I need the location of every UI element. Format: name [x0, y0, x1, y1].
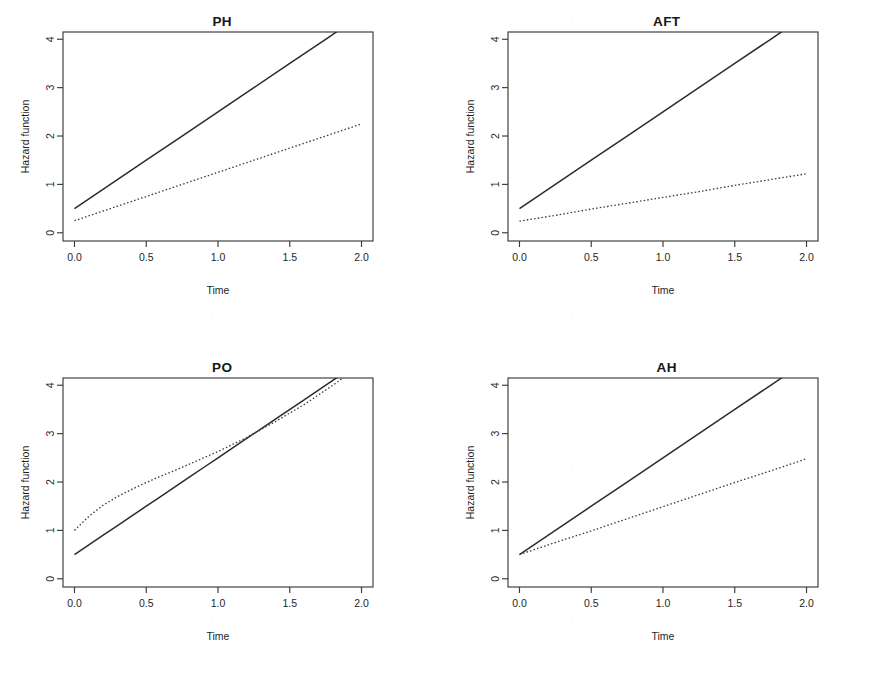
x-tick-label: 1.5: [727, 251, 742, 263]
y-tick-label: 0: [489, 576, 501, 582]
plot-ah: 0.00.51.01.52.001234TimeHazard function: [445, 346, 889, 692]
y-axis-title: Hazard function: [19, 446, 31, 520]
x-tick-label: 0.5: [583, 251, 598, 263]
x-tick-label: 0.0: [512, 251, 527, 263]
x-tick-label: 0.0: [512, 597, 527, 609]
x-tick-label: 0.0: [67, 251, 82, 263]
curve-baseline: [74, 361, 361, 555]
plot-frame: [508, 378, 818, 587]
plot-frame: [63, 378, 373, 587]
curve-baseline: [519, 15, 806, 209]
y-tick-label: 2: [44, 133, 56, 139]
x-tick-label: 2.0: [799, 597, 814, 609]
x-tick-label: 1.0: [211, 251, 226, 263]
y-tick-label: 3: [44, 431, 56, 437]
panel-aft: AFT 0.00.51.01.52.001234TimeHazard funct…: [445, 0, 889, 346]
y-tick-label: 0: [44, 230, 56, 236]
curve-covariate: [519, 459, 806, 555]
x-tick-label: 1.0: [655, 597, 670, 609]
y-tick-label: 1: [489, 181, 501, 187]
y-tick-label: 1: [44, 527, 56, 533]
y-tick-label: 3: [489, 85, 501, 91]
x-tick-label: 2.0: [354, 251, 369, 263]
plot-frame: [508, 32, 818, 241]
y-tick-label: 3: [489, 431, 501, 437]
y-tick-label: 4: [44, 382, 56, 388]
panel-po: PO 0.00.51.01.52.001234TimeHazard functi…: [0, 346, 445, 692]
y-tick-label: 3: [44, 85, 56, 91]
y-tick-label: 4: [44, 36, 56, 42]
y-tick-label: 1: [489, 527, 501, 533]
x-tick-label: 1.0: [211, 597, 226, 609]
curve-baseline: [519, 361, 806, 555]
x-axis-title: Time: [651, 630, 674, 642]
curve-covariate: [74, 124, 361, 221]
x-tick-label: 0.5: [139, 251, 154, 263]
x-tick-label: 2.0: [799, 251, 814, 263]
y-tick-label: 1: [44, 181, 56, 187]
x-tick-label: 2.0: [354, 597, 369, 609]
x-tick-label: 1.5: [282, 251, 297, 263]
y-tick-label: 0: [44, 576, 56, 582]
x-axis-title: Time: [207, 284, 230, 296]
x-axis-title: Time: [207, 630, 230, 642]
curve-covariate: [519, 174, 806, 221]
x-tick-label: 0.0: [67, 597, 82, 609]
plot-po: 0.00.51.01.52.001234TimeHazard function: [0, 346, 445, 692]
y-axis-title: Hazard function: [464, 446, 476, 520]
x-axis-title: Time: [651, 284, 674, 296]
panel-ah: AH 0.00.51.01.52.001234TimeHazard functi…: [445, 346, 889, 692]
y-tick-label: 4: [489, 382, 501, 388]
x-tick-label: 0.5: [583, 597, 598, 609]
y-axis-title: Hazard function: [19, 100, 31, 174]
x-tick-label: 0.5: [139, 597, 154, 609]
plot-ph: 0.00.51.01.52.001234TimeHazard function: [0, 0, 445, 346]
plot-frame: [63, 32, 373, 241]
x-tick-label: 1.5: [727, 597, 742, 609]
y-tick-label: 2: [489, 479, 501, 485]
x-tick-label: 1.5: [282, 597, 297, 609]
curve-baseline: [74, 15, 361, 209]
y-tick-label: 4: [489, 36, 501, 42]
y-tick-label: 2: [489, 133, 501, 139]
panel-ph: PH 0.00.51.01.52.001234TimeHazard functi…: [0, 0, 445, 346]
y-axis-title: Hazard function: [464, 100, 476, 174]
y-tick-label: 2: [44, 479, 56, 485]
x-tick-label: 1.0: [655, 251, 670, 263]
y-tick-label: 0: [489, 230, 501, 236]
plot-aft: 0.00.51.01.52.001234TimeHazard function: [445, 0, 889, 346]
figure-panel-grid: PH 0.00.51.01.52.001234TimeHazard functi…: [0, 0, 889, 692]
